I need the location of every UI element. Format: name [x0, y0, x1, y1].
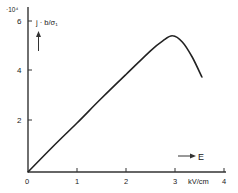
y-tick-label-6: 6	[17, 17, 22, 26]
x-tick-label-2: 2	[124, 177, 128, 186]
y-scale-multiplier: ·10⁴	[6, 6, 18, 13]
y-axis-label: j · b/σ₁	[35, 18, 58, 27]
x-tick-label-4: 4	[222, 177, 226, 186]
x-tick-label-3: 3	[173, 177, 177, 186]
data-curve	[28, 36, 202, 172]
y-tick-label-4: 4	[17, 66, 22, 75]
x-unit-label: kV/cm	[188, 177, 209, 186]
x-axis-label: E	[198, 152, 204, 162]
y-label-arrowhead-icon	[36, 31, 41, 37]
x-tick-label-0: 0	[25, 177, 29, 186]
x-label-arrowhead-icon	[190, 154, 196, 159]
chart: 6 4 2 ·10⁴ 0 1 2 3 kV/cm 4 j · b/σ₁ E	[0, 0, 238, 193]
chart-svg: 6 4 2 ·10⁴ 0 1 2 3 kV/cm 4 j · b/σ₁ E	[0, 0, 238, 193]
x-tick-label-1: 1	[75, 177, 79, 186]
y-tick-label-2: 2	[17, 116, 22, 125]
